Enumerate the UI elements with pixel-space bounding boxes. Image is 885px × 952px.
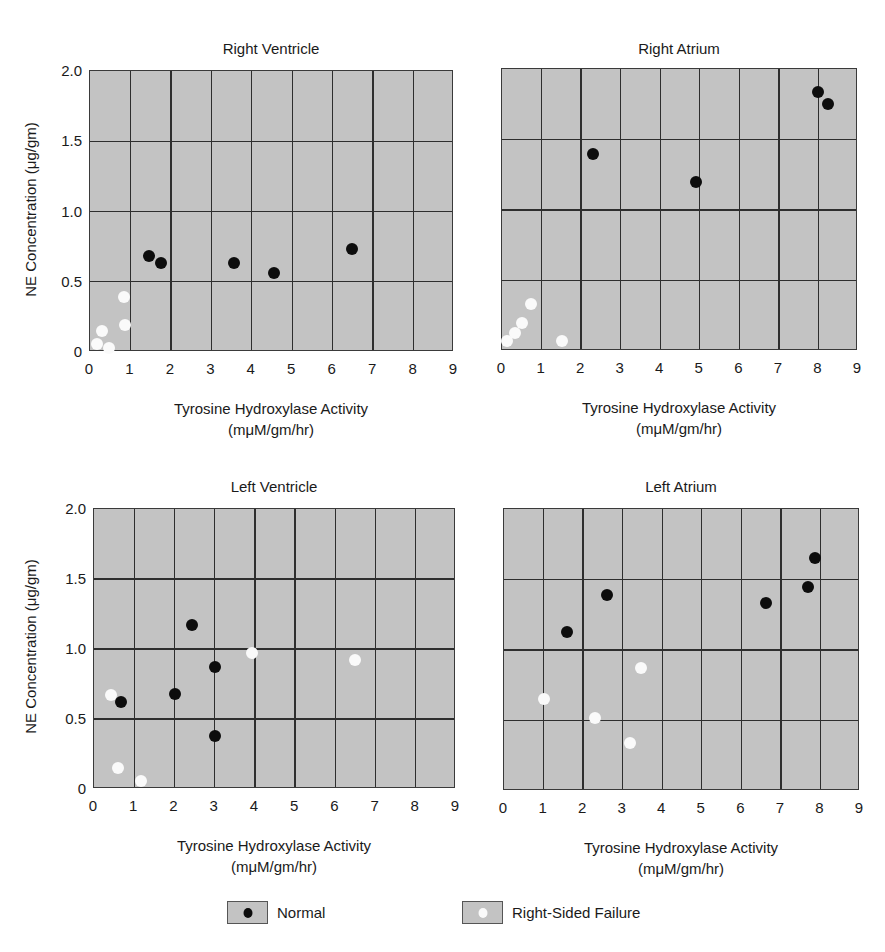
data-point-failure bbox=[96, 325, 108, 337]
panel-title: Left Ventricle bbox=[93, 478, 455, 495]
y-tick-label: 1.5 bbox=[46, 570, 86, 587]
data-point-failure bbox=[624, 737, 636, 749]
x-axis-label: Tyrosine Hydroxylase Activity(mμM/gm/hr) bbox=[93, 835, 455, 877]
x-tick-label: 5 bbox=[287, 360, 295, 377]
x-tick-label: 3 bbox=[206, 360, 214, 377]
data-point-failure bbox=[112, 762, 124, 774]
x-tick-label: 5 bbox=[695, 359, 703, 376]
x-tick-label: 7 bbox=[774, 359, 782, 376]
x-axis-label-line2: (mμM/gm/hr) bbox=[501, 418, 857, 439]
plot-area bbox=[501, 68, 857, 350]
panel-title: Left Atrium bbox=[503, 478, 859, 495]
grid-line-horizontal bbox=[502, 139, 856, 140]
data-point-normal bbox=[169, 688, 181, 700]
x-axis-label-line2: (mμM/gm/hr) bbox=[503, 858, 859, 879]
legend-item-failure: Right-Sided Failure bbox=[462, 901, 640, 924]
y-tick-label: 1.0 bbox=[46, 640, 86, 657]
x-tick-label: 7 bbox=[776, 799, 784, 816]
x-axis-label: Tyrosine Hydroxylase Activity(mμM/gm/hr) bbox=[503, 837, 859, 879]
x-tick-label: 8 bbox=[813, 359, 821, 376]
data-point-failure bbox=[538, 693, 550, 705]
x-tick-label: 2 bbox=[166, 360, 174, 377]
y-tick-label: 0 bbox=[42, 343, 82, 360]
x-tick-label: 2 bbox=[169, 797, 177, 814]
data-point-failure bbox=[556, 335, 568, 347]
y-axis-label: NE Concentration (μg/gm) bbox=[22, 507, 39, 787]
x-tick-label: 4 bbox=[657, 799, 665, 816]
data-point-normal bbox=[601, 589, 613, 601]
plot-area bbox=[503, 508, 859, 790]
x-tick-label: 3 bbox=[209, 797, 217, 814]
data-point-normal bbox=[690, 176, 702, 188]
grid-line-horizontal bbox=[502, 209, 856, 210]
grid-line-horizontal bbox=[90, 211, 452, 212]
grid-line-horizontal bbox=[90, 141, 452, 142]
x-tick-label: 1 bbox=[536, 359, 544, 376]
data-point-normal bbox=[186, 619, 198, 631]
legend-label: Normal bbox=[277, 904, 325, 921]
x-tick-label: 9 bbox=[853, 359, 861, 376]
legend-swatch-failure bbox=[462, 901, 503, 924]
x-axis-label: Tyrosine Hydroxylase Activity(mμM/gm/hr) bbox=[501, 397, 857, 439]
data-point-normal bbox=[228, 257, 240, 269]
x-tick-label: 4 bbox=[247, 360, 255, 377]
x-tick-label: 2 bbox=[576, 359, 584, 376]
data-point-failure bbox=[635, 662, 647, 674]
data-point-normal bbox=[809, 552, 821, 564]
x-tick-label: 6 bbox=[736, 799, 744, 816]
y-tick-label: 2.0 bbox=[42, 62, 82, 79]
x-tick-label: 5 bbox=[290, 797, 298, 814]
x-tick-label: 6 bbox=[734, 359, 742, 376]
y-tick-label: 0.5 bbox=[42, 272, 82, 289]
x-tick-label: 7 bbox=[368, 360, 376, 377]
data-point-failure bbox=[103, 342, 115, 354]
grid-line-horizontal bbox=[94, 578, 454, 579]
data-point-failure bbox=[246, 647, 258, 659]
x-tick-label: 0 bbox=[89, 797, 97, 814]
x-tick-label: 8 bbox=[815, 799, 823, 816]
x-tick-label: 9 bbox=[451, 797, 459, 814]
x-tick-label: 9 bbox=[855, 799, 863, 816]
x-axis-label-line2: (mμM/gm/hr) bbox=[93, 856, 455, 877]
panel-title: Right Ventricle bbox=[89, 40, 453, 57]
data-point-normal bbox=[143, 250, 155, 262]
x-tick-label: 6 bbox=[327, 360, 335, 377]
x-tick-label: 8 bbox=[411, 797, 419, 814]
x-tick-label: 1 bbox=[125, 360, 133, 377]
x-tick-label: 1 bbox=[129, 797, 137, 814]
legend-dot-icon bbox=[243, 908, 252, 918]
grid-line-horizontal bbox=[504, 579, 858, 580]
grid-line-horizontal bbox=[504, 720, 858, 721]
plot-area bbox=[89, 70, 453, 351]
y-tick-label: 0 bbox=[46, 780, 86, 797]
x-axis-label-line1: Tyrosine Hydroxylase Activity bbox=[503, 837, 859, 858]
grid-line-horizontal bbox=[504, 649, 858, 650]
data-point-normal bbox=[346, 243, 358, 255]
data-point-normal bbox=[561, 626, 573, 638]
y-tick-label: 1.0 bbox=[42, 202, 82, 219]
x-axis-label-line1: Tyrosine Hydroxylase Activity bbox=[501, 397, 857, 418]
x-tick-label: 5 bbox=[697, 799, 705, 816]
grid-line-horizontal bbox=[94, 648, 454, 649]
x-tick-label: 9 bbox=[449, 360, 457, 377]
x-tick-label: 0 bbox=[497, 359, 505, 376]
x-tick-label: 3 bbox=[617, 799, 625, 816]
panel-title: Right Atrium bbox=[501, 40, 857, 57]
x-tick-label: 4 bbox=[655, 359, 663, 376]
data-point-normal bbox=[822, 98, 834, 110]
legend-item-normal: Normal bbox=[227, 901, 325, 924]
grid-line-horizontal bbox=[502, 280, 856, 281]
x-tick-label: 1 bbox=[538, 799, 546, 816]
legend-label: Right-Sided Failure bbox=[512, 904, 640, 921]
cutoff-caption-text bbox=[0, 942, 885, 952]
data-point-normal bbox=[587, 148, 599, 160]
x-tick-label: 3 bbox=[615, 359, 623, 376]
data-point-failure bbox=[501, 335, 513, 347]
x-axis-label-line1: Tyrosine Hydroxylase Activity bbox=[93, 835, 455, 856]
data-point-failure bbox=[135, 775, 147, 787]
y-tick-label: 2.0 bbox=[46, 500, 86, 517]
data-point-failure bbox=[105, 689, 117, 701]
data-point-normal bbox=[812, 86, 824, 98]
data-point-normal bbox=[155, 257, 167, 269]
data-point-failure bbox=[525, 298, 537, 310]
